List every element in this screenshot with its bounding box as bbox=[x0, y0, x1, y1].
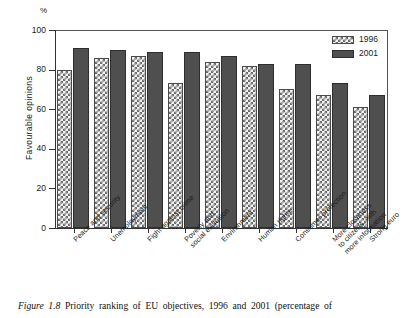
bar-2001 bbox=[258, 64, 274, 228]
y-axis-tick-label-wrap: 100 bbox=[16, 26, 46, 35]
bar-2001 bbox=[147, 52, 163, 228]
y-axis-tick-label: 0 bbox=[18, 224, 46, 232]
figure-number: Figure 1.8 bbox=[18, 300, 60, 311]
y-axis-tick-label-wrap: 60 bbox=[16, 105, 46, 114]
y-axis-tick-label: 60 bbox=[18, 105, 46, 113]
y-axis-tick-label-wrap: 0 bbox=[16, 224, 46, 233]
figure-caption-text: Priority ranking of EU objectives, 1996 … bbox=[65, 300, 332, 311]
y-axis-unit-label: % bbox=[40, 6, 47, 15]
legend-item-1996: 1996 bbox=[332, 34, 386, 45]
bar-2001 bbox=[73, 48, 89, 228]
bar-2001 bbox=[295, 64, 311, 228]
y-axis-tick-label: 100 bbox=[18, 26, 46, 34]
figure-container: % Favourable opinions 020406080100 Peace… bbox=[0, 0, 408, 318]
y-axis-tick-label-wrap: 20 bbox=[16, 184, 46, 193]
y-axis-tick bbox=[49, 228, 55, 229]
bar-2001 bbox=[221, 56, 237, 228]
bar-1996 bbox=[242, 66, 258, 228]
y-axis-tick-label: 40 bbox=[18, 144, 46, 152]
y-axis-tick-label: 20 bbox=[18, 184, 46, 192]
legend-label-1996: 1996 bbox=[359, 35, 378, 44]
chart-legend: 1996 2001 bbox=[332, 34, 386, 62]
y-axis-tick-label-wrap: 80 bbox=[16, 65, 46, 74]
legend-label-2001: 2001 bbox=[359, 49, 378, 58]
bar-1996 bbox=[57, 70, 73, 228]
legend-swatch-1996-icon bbox=[332, 36, 354, 44]
y-axis-tick-label: 80 bbox=[18, 65, 46, 73]
figure-caption: Figure 1.8 Priority ranking of EU object… bbox=[18, 300, 394, 314]
legend-item-2001: 2001 bbox=[332, 48, 386, 59]
legend-swatch-2001-icon bbox=[332, 50, 354, 58]
y-axis-tick-label-wrap: 40 bbox=[16, 144, 46, 153]
